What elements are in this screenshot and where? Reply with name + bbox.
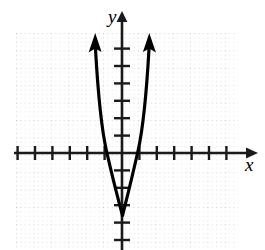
graph-figure: y x xyxy=(0,0,265,250)
x-axis-label: x xyxy=(245,155,253,174)
y-axis-arrowhead xyxy=(117,11,128,22)
coordinate-plane-svg xyxy=(0,0,265,250)
y-axis-label: y xyxy=(108,7,116,26)
